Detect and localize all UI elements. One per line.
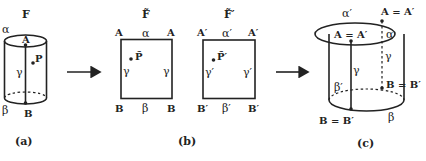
caption-c: (c) bbox=[357, 137, 374, 150]
label-b-bottom-left: B bbox=[115, 103, 123, 114]
label-b-prime-bottom-right: B′ bbox=[248, 103, 259, 114]
label-alpha-prime: α′ bbox=[342, 7, 352, 20]
label-back-top-a-eq-a-prime: A = A′ bbox=[380, 6, 415, 17]
front-bottom-dot bbox=[349, 107, 353, 111]
label-gamma-right: γ bbox=[163, 65, 170, 78]
label-a-top-left: A bbox=[114, 27, 123, 38]
label-b-bottom-right: B bbox=[167, 103, 175, 114]
panel-b-square-2: F̃′ A′ α′ A′ P̃′ γ′ γ′ B′ β′ B′ bbox=[196, 8, 259, 115]
label-beta-prime: β′ bbox=[334, 81, 343, 94]
label-back-bottom-b-eq-b-prime: B = B′ bbox=[386, 79, 421, 90]
label-gamma: γ bbox=[16, 66, 23, 79]
point-p-tilde-dot bbox=[129, 57, 133, 61]
label-gamma-prime-left: γ′ bbox=[205, 66, 215, 79]
label-front-top-a-eq-a-prime: A = A′ bbox=[333, 29, 368, 40]
label-p: P bbox=[35, 53, 43, 64]
label-p-tilde-prime: P̃′ bbox=[217, 51, 228, 62]
label-front-gamma: γ bbox=[353, 64, 360, 77]
label-a-prime-top-left: A′ bbox=[196, 27, 208, 38]
label-p-tilde: P̃ bbox=[135, 51, 143, 62]
panel-a-cylinder: F α A P γ β B (a) bbox=[2, 8, 47, 148]
label-gamma-prime-right: γ′ bbox=[243, 66, 253, 79]
label-f-tilde: F̃ bbox=[142, 8, 150, 21]
label-gamma-left: γ bbox=[123, 65, 130, 78]
label-b: B bbox=[24, 108, 32, 119]
label-alpha: α bbox=[2, 23, 10, 36]
label-a: A bbox=[21, 34, 30, 45]
label-b-prime-bottom-left: B′ bbox=[197, 103, 208, 114]
bottom-front-beta bbox=[329, 100, 404, 111]
label-front-bottom-b-eq-b-prime: B = B′ bbox=[319, 115, 354, 126]
label-beta-prime-edge: β′ bbox=[222, 102, 231, 115]
label-a-prime-top-right: A′ bbox=[247, 27, 259, 38]
point-p-tilde-prime-dot bbox=[212, 58, 216, 62]
back-top-dot bbox=[380, 19, 384, 23]
caption-a: (a) bbox=[15, 135, 33, 148]
back-bottom-dot bbox=[380, 86, 384, 90]
label-beta: β bbox=[2, 104, 8, 117]
caption-b: (b) bbox=[178, 135, 196, 148]
label-alpha: α bbox=[386, 28, 394, 41]
point-b-dot bbox=[24, 101, 28, 105]
label-beta-edge: β bbox=[142, 102, 148, 115]
panel-c-cylinder: α′ A = A′ A = A′ α γ γ β′ B = B′ B = B′ … bbox=[315, 6, 421, 150]
label-alpha-prime-edge: α′ bbox=[222, 27, 232, 40]
label-f: F bbox=[22, 8, 30, 21]
label-alpha-edge: α bbox=[142, 27, 150, 40]
label-a-top-right: A bbox=[166, 27, 175, 38]
cylinder-cutting-diagram: F α A P γ β B (a) F̃ A α A P̃ γ γ B β B … bbox=[0, 0, 426, 161]
panel-b-square-1: F̃ A α A P̃ γ γ B β B bbox=[114, 8, 175, 115]
label-beta: β bbox=[388, 111, 394, 124]
label-back-gamma: γ bbox=[385, 50, 392, 63]
label-f-tilde-prime: F̃′ bbox=[224, 8, 235, 21]
